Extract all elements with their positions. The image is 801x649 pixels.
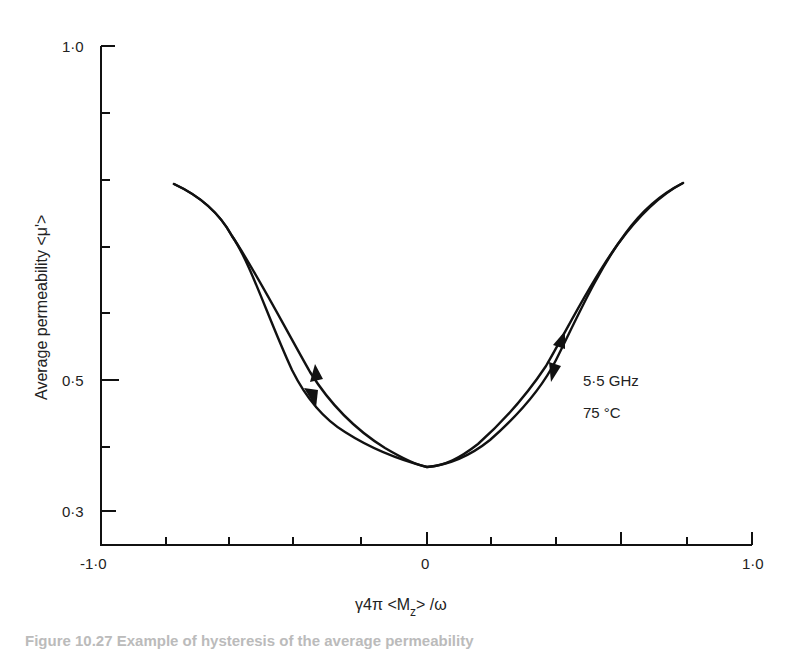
y-axis-title: Average permeability <μ'> — [33, 215, 50, 400]
x-tick-label-0: 0 — [421, 555, 429, 572]
x-tick-label-minus-1-0: -1·0 — [80, 555, 107, 572]
arrow-up-icon — [553, 331, 565, 349]
y-tick-label-0-3: 0·3 — [62, 503, 84, 520]
temperature-annotation: 75 °C — [583, 404, 621, 421]
y-tick-label-0-5: 0·5 — [62, 372, 84, 389]
arrow-down-icon — [549, 362, 561, 382]
arrow-down-icon — [304, 388, 318, 408]
curve-branch-a — [174, 183, 683, 467]
x-axis — [100, 532, 752, 545]
x-axis-title-tail: > /ω — [416, 596, 447, 613]
frequency-annotation: 5·5 GHz — [583, 372, 639, 389]
y-axis — [101, 46, 119, 546]
curve-branch-b — [174, 183, 683, 467]
y-tick-label-1-0: 1·0 — [62, 38, 84, 55]
x-axis-title: γ4π <Mz> /ω — [355, 596, 447, 619]
figure-caption: Figure 10.27 Example of hysteresis of th… — [25, 632, 474, 649]
hysteresis-curves — [174, 183, 683, 467]
direction-arrows — [304, 331, 565, 408]
x-axis-title-main: γ4π <M — [355, 596, 410, 613]
x-tick-label-1-0: 1·0 — [742, 555, 764, 572]
